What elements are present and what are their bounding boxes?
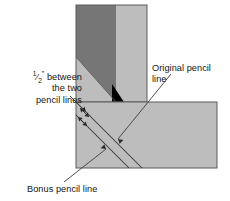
label-gap-line-3: pencil lines <box>6 95 82 106</box>
horizontal-board-face <box>76 102 217 168</box>
vertical-board-group <box>76 5 147 102</box>
label-bonus-line-1: Bonus pencil line <box>27 184 97 195</box>
label-gap-line-2: the two <box>6 83 82 94</box>
fraction-one-half: 1⁄2 <box>33 72 42 83</box>
label-half-inch-gap: 1⁄2” between the two pencil lines <box>6 72 82 106</box>
diagram-stage: 1⁄2” between the two pencil lines Origin… <box>0 0 230 201</box>
label-original-line-2: line <box>152 74 211 85</box>
label-original-pencil-line: Original pencil line <box>152 63 211 86</box>
horizontal-board-group <box>76 102 217 168</box>
label-bonus-pencil-line: Bonus pencil line <box>27 184 97 195</box>
fraction-denominator: 2 <box>38 76 42 83</box>
label-gap-text: between <box>44 72 82 82</box>
vertical-board-light-face <box>116 5 147 102</box>
label-gap-line-1: 1⁄2” between <box>6 72 82 83</box>
label-original-line-1: Original pencil <box>152 63 211 74</box>
